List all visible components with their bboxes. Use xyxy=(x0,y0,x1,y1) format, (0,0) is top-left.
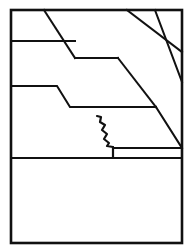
figure-canvas xyxy=(0,0,193,251)
stratum-region-basement xyxy=(11,158,182,243)
cross-section-diagram xyxy=(0,0,193,251)
